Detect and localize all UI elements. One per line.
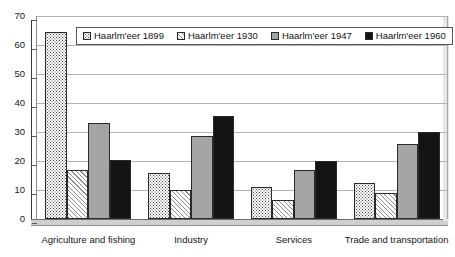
legend-item: Haarlm'eer 1947 xyxy=(271,31,352,41)
legend-swatch-icon xyxy=(177,32,185,40)
y-axis-line xyxy=(31,20,32,223)
bar xyxy=(294,170,316,219)
y-axis-tick-label: 40 xyxy=(14,98,25,108)
legend-swatch-icon xyxy=(271,32,279,40)
x-axis-category-labels: Agriculture and fishingIndustryServicesT… xyxy=(0,234,455,250)
y-axis-tick-label: 70 xyxy=(14,11,25,21)
y-axis-tick-label: 50 xyxy=(14,69,25,79)
legend-item-label: Haarlm'eer 1930 xyxy=(188,31,258,41)
y-axis-tick-mark xyxy=(32,165,37,166)
bar xyxy=(191,136,213,219)
bar-group xyxy=(251,16,337,219)
legend-item: Haarlm'eer 1930 xyxy=(177,31,258,41)
chart-legend: Haarlm'eer 1899Haarlm'eer 1930Haarlm'eer… xyxy=(76,27,453,45)
y-axis-tick-label: 0 xyxy=(20,214,25,224)
y-axis-tick-label: 60 xyxy=(14,40,25,50)
bar xyxy=(315,161,337,219)
bar xyxy=(88,123,110,219)
x-axis-category-label: Trade and transportation xyxy=(169,234,455,245)
y-axis-tick-label: 20 xyxy=(14,156,25,166)
y-axis-tick-mark xyxy=(32,223,37,224)
y-axis-tick-mark xyxy=(32,49,37,50)
plot-area xyxy=(37,16,448,219)
bar-group xyxy=(45,16,131,219)
bar xyxy=(418,132,440,219)
bar xyxy=(375,193,397,219)
legend-item: Haarlm'eer 1960 xyxy=(365,31,446,41)
bar xyxy=(213,116,235,219)
legend-item: Haarlm'eer 1899 xyxy=(83,31,164,41)
bar-group xyxy=(354,16,440,219)
y-axis-tick-mark xyxy=(32,194,37,195)
bar xyxy=(148,173,170,219)
legend-item-label: Haarlm'eer 1899 xyxy=(94,31,164,41)
bar xyxy=(110,160,132,219)
bar xyxy=(45,32,67,219)
y-axis-tick-label: 10 xyxy=(14,185,25,195)
bar xyxy=(397,144,419,219)
y-axis-tick-mark xyxy=(32,136,37,137)
legend-item-label: Haarlm'eer 1960 xyxy=(376,31,446,41)
legend-swatch-icon xyxy=(83,32,91,40)
y-axis-tick-mark xyxy=(32,20,37,21)
bar xyxy=(251,187,273,219)
bar xyxy=(170,190,192,219)
y-axis-tick-label: 30 xyxy=(14,127,25,137)
legend-item-label: Haarlm'eer 1947 xyxy=(282,31,352,41)
bar-chart: 706050403020100 Haarlm'eer 1899Haarlm'ee… xyxy=(0,0,455,257)
bars-layer xyxy=(37,16,448,219)
y-axis: 706050403020100 xyxy=(0,0,28,257)
legend-swatch-icon xyxy=(365,32,373,40)
plot-baseline xyxy=(31,219,448,226)
bar xyxy=(272,200,294,219)
y-axis-tick-mark xyxy=(32,107,37,108)
bar xyxy=(354,183,376,219)
y-axis-tick-mark xyxy=(32,78,37,79)
bar-group xyxy=(148,16,234,219)
bar xyxy=(67,170,89,219)
